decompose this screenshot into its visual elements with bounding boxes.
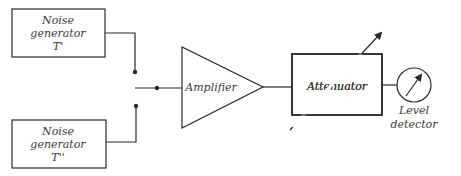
noise-generator-2-line1: Noise bbox=[41, 125, 74, 138]
wire-gen2-to-switch bbox=[106, 106, 136, 142]
noise-measurement-diagram: Noise generator T' Noise generator T'' A… bbox=[0, 0, 461, 176]
amplifier-label: Amplifier bbox=[184, 81, 237, 94]
level-detector: Level detector bbox=[391, 68, 439, 131]
noise-generator-1-line2: generator bbox=[30, 27, 86, 40]
meter-needle-icon bbox=[406, 75, 421, 96]
noise-generator-1-line3: T' bbox=[53, 40, 63, 53]
noise-generator-2-block: Noise generator T'' bbox=[12, 120, 106, 168]
attenuator-label-top: Attenuator bbox=[306, 80, 368, 93]
noise-generator-2-line2: generator bbox=[30, 138, 86, 151]
switch-contact-top bbox=[133, 70, 137, 74]
level-detector-line1: Level bbox=[398, 104, 430, 117]
level-detector-line2: detector bbox=[391, 118, 439, 131]
noise-generator-1-line1: Noise bbox=[41, 14, 74, 27]
wire-gen1-to-switch bbox=[105, 33, 135, 72]
noise-generator-2-line3: T'' bbox=[51, 151, 64, 164]
noise-generator-1-block: Noise generator T' bbox=[12, 9, 105, 57]
amplifier-block: Amplifier bbox=[182, 47, 263, 128]
switch-contact-bottom bbox=[134, 104, 138, 108]
switch-pivot bbox=[155, 86, 159, 90]
